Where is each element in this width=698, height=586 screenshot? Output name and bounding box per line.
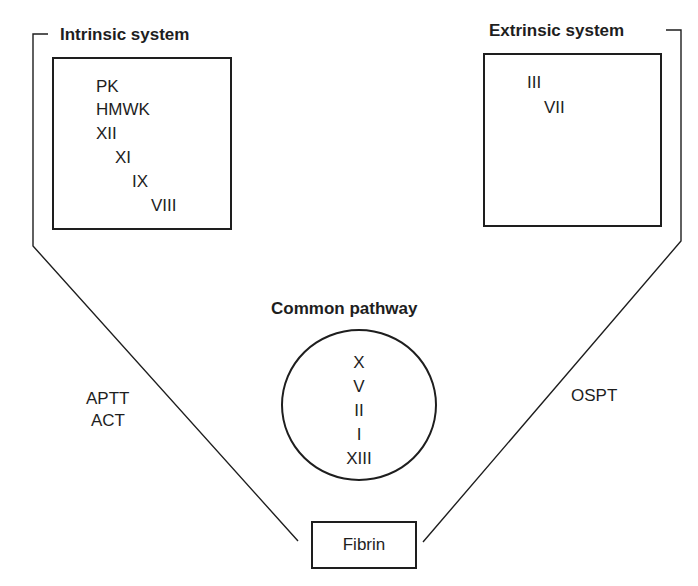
common-pathway-title: Common pathway <box>271 299 417 319</box>
common-factor: XIII <box>283 447 435 471</box>
common-factor: X <box>283 351 435 375</box>
intrinsic-factor: HMWK <box>96 100 150 120</box>
common-pathway-factors: X V II I XIII <box>283 351 435 471</box>
intrinsic-factor: PK <box>96 77 119 97</box>
common-factor: V <box>283 375 435 399</box>
extrinsic-box: III VII <box>483 53 662 227</box>
fibrin-box: Fibrin <box>311 521 417 569</box>
intrinsic-title: Intrinsic system <box>60 25 189 45</box>
common-pathway-circle: X V II I XIII <box>281 329 437 481</box>
intrinsic-factor: XII <box>96 124 117 144</box>
common-factor: II <box>283 399 435 423</box>
intrinsic-test-aptt: APTT <box>86 388 129 409</box>
intrinsic-factor: IX <box>132 172 148 192</box>
intrinsic-factor: XI <box>115 148 131 168</box>
extrinsic-test-ospt: OSPT <box>571 385 617 406</box>
intrinsic-factor: VIII <box>151 196 177 216</box>
intrinsic-box: PK HMWK XII XI IX VIII <box>52 57 232 230</box>
intrinsic-test-act: ACT <box>91 410 125 431</box>
extrinsic-factor: VII <box>544 98 565 118</box>
common-factor: I <box>283 423 435 447</box>
extrinsic-title: Extrinsic system <box>489 21 624 41</box>
fibrin-label: Fibrin <box>343 535 386 555</box>
extrinsic-factor: III <box>527 73 541 93</box>
